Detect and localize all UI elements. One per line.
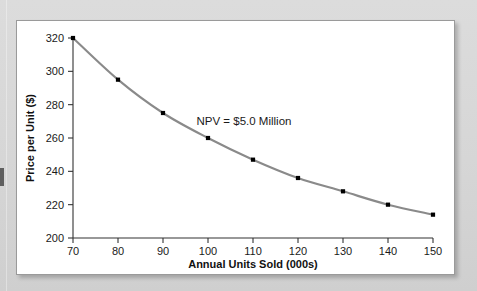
x-axis-ticks: 708090100110120130140150 <box>67 238 442 257</box>
x-tick-label: 150 <box>424 245 442 257</box>
data-point-marker <box>206 136 210 140</box>
y-tick-label: 220 <box>46 199 64 211</box>
x-axis-title: Annual Units Sold (000s) <box>188 258 318 270</box>
x-tick-label: 110 <box>244 245 262 257</box>
x-tick-label: 90 <box>157 245 169 257</box>
data-point-marker <box>296 176 300 180</box>
chart-figure-panel: 200220240260280300320 708090100110120130… <box>16 20 455 275</box>
data-point-marker <box>431 213 435 217</box>
y-tick-label: 260 <box>46 132 64 144</box>
y-tick-label: 280 <box>46 99 64 111</box>
x-tick-label: 80 <box>112 245 124 257</box>
data-point-marker <box>161 111 165 115</box>
page-margin-artifact <box>0 168 4 186</box>
y-axis-title: Price per Unit ($) <box>24 94 36 182</box>
x-tick-label: 100 <box>199 245 217 257</box>
x-tick-label: 120 <box>289 245 307 257</box>
x-tick-label: 70 <box>67 245 79 257</box>
x-tick-label: 130 <box>334 245 352 257</box>
page-margin-rule <box>6 0 7 291</box>
data-point-marker <box>251 158 255 162</box>
y-tick-label: 300 <box>46 65 64 77</box>
data-point-marker <box>386 203 390 207</box>
npv-annotation: NPV = $5.0 Million <box>197 115 292 127</box>
x-tick-label: 140 <box>379 245 397 257</box>
y-tick-label: 200 <box>46 232 64 244</box>
data-point-marker <box>341 189 345 193</box>
y-tick-label: 240 <box>46 165 64 177</box>
y-axis-ticks: 200220240260280300320 <box>46 32 73 244</box>
data-point-marker <box>116 78 120 82</box>
data-point-marker <box>71 36 75 40</box>
line-chart: 200220240260280300320 708090100110120130… <box>17 21 454 274</box>
chart-axes <box>73 38 433 238</box>
y-tick-label: 320 <box>46 32 64 44</box>
